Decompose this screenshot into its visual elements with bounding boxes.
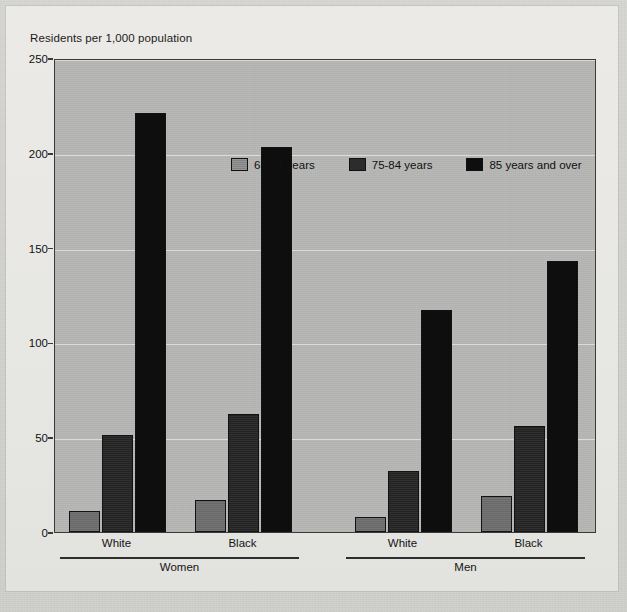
legend-item: 85 years and over: [466, 158, 581, 171]
y-tick-mark: [48, 248, 53, 250]
bar: [355, 517, 386, 532]
bar: [388, 471, 419, 532]
plot-area: 65-74 years75-84 years85 years and over: [54, 59, 596, 533]
bar: [547, 261, 578, 532]
bar: [69, 511, 100, 532]
bar: [514, 426, 545, 532]
legend-swatch-85-over: [466, 158, 483, 171]
legend-item: 75-84 years: [349, 158, 433, 171]
x-axis-group-label: Men: [454, 561, 476, 573]
scanned-page-background: the health status of people continues to…: [0, 0, 627, 612]
y-axis-title: Residents per 1,000 population: [30, 32, 192, 44]
legend-item: 65-74 years: [231, 158, 315, 171]
bars-layer: [55, 60, 595, 532]
bar: [481, 496, 512, 532]
legend-label: 65-74 years: [254, 159, 315, 171]
bar: [228, 414, 259, 532]
x-axis-group-rule: [346, 557, 585, 559]
bar: [102, 435, 133, 532]
x-axis-group-rule: [60, 557, 299, 559]
y-tick-mark: [48, 153, 53, 155]
x-axis-group-label: Women: [160, 561, 199, 573]
x-axis-category-label: Black: [514, 537, 542, 549]
legend-label: 85 years and over: [489, 159, 581, 171]
y-axis-tick-marks: [6, 59, 54, 533]
x-axis-category-label: White: [388, 537, 417, 549]
bar: [135, 113, 166, 532]
chart-legend: 65-74 years75-84 years85 years and over: [227, 156, 586, 173]
y-tick-mark: [48, 58, 53, 60]
chart-figure: Residents per 1,000 population 050100150…: [6, 6, 618, 591]
legend-swatch-75-84: [349, 158, 366, 171]
x-axis-category-label: Black: [228, 537, 256, 549]
legend-swatch-65-74: [231, 158, 248, 171]
y-tick-mark: [48, 343, 53, 345]
legend-label: 75-84 years: [372, 159, 433, 171]
bar: [195, 500, 226, 532]
x-axis: WhiteBlackWhiteBlackWomenMen: [54, 535, 596, 591]
x-axis-category-label: White: [102, 537, 131, 549]
bar: [421, 310, 452, 532]
bar: [261, 147, 292, 532]
y-tick-mark: [48, 532, 53, 534]
y-tick-mark: [48, 437, 53, 439]
